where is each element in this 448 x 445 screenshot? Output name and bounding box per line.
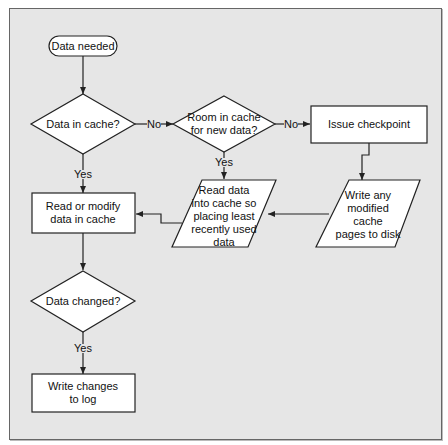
edge-label-yes-1: Yes <box>74 168 92 180</box>
label-read-into-4: recently used <box>191 223 256 235</box>
label-room-1: Room in cache <box>187 111 260 123</box>
edge-label-no-1: No <box>147 118 161 130</box>
label-checkpoint: Issue checkpoint <box>328 118 410 130</box>
label-write-2: modified <box>347 202 389 214</box>
edge-label-yes-2: Yes <box>215 156 233 168</box>
flowchart: Data needed Data in cache? Room in cache… <box>0 0 448 445</box>
label-read-into-1: Read data <box>199 184 251 196</box>
label-write-4: pages to disk <box>336 228 401 240</box>
label-read-into-5: data <box>213 236 235 248</box>
label-read-modify-2: data in cache <box>50 213 115 225</box>
arrow-checkpoint-to-write <box>362 143 369 180</box>
label-changed: Data changed? <box>46 295 121 307</box>
label-read-modify-1: Read or modify <box>46 200 121 212</box>
label-start: Data needed <box>52 40 115 52</box>
edge-label-yes-3: Yes <box>74 342 92 354</box>
arrow-read-into-to-read-modify <box>136 214 182 223</box>
label-write-log-2: to log <box>70 393 97 405</box>
label-write-log-1: Write changes <box>48 380 119 392</box>
edge-label-no-2: No <box>284 118 298 130</box>
label-read-into-3: placing least <box>193 210 254 222</box>
label-read-into-2: into cache so <box>192 197 257 209</box>
label-write-1: Write any <box>345 189 392 201</box>
label-write-3: cache <box>353 215 382 227</box>
label-in-cache: Data in cache? <box>46 118 119 130</box>
label-room-2: for new data? <box>191 124 258 136</box>
